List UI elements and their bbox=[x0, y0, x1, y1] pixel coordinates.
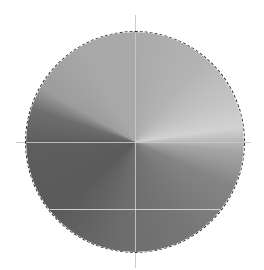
horizontal-guide-center[interactable] bbox=[16, 142, 251, 143]
horizontal-guide-lower[interactable] bbox=[50, 209, 220, 210]
image-canvas[interactable] bbox=[0, 0, 264, 270]
